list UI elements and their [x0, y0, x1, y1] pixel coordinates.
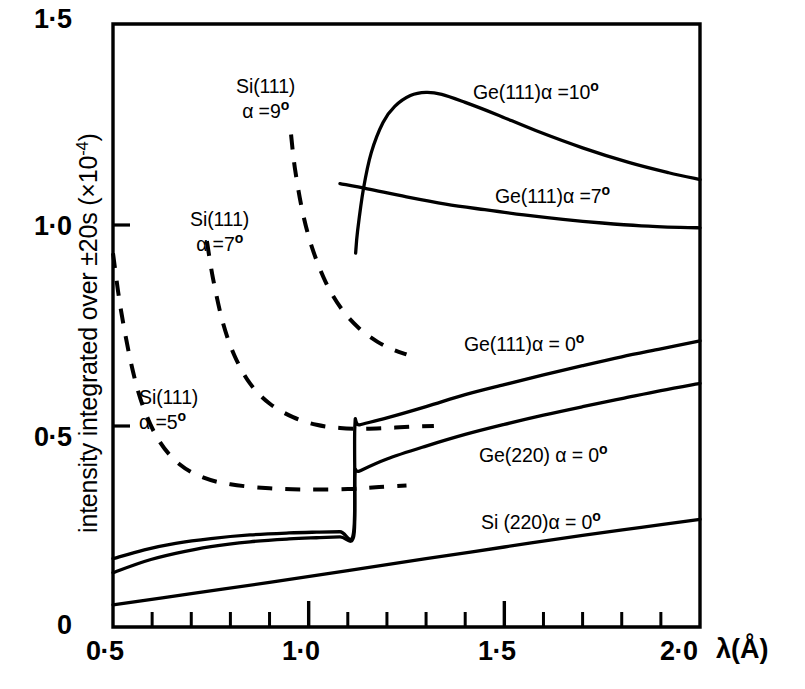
degree-icon: o [281, 97, 289, 113]
degree-icon: o [178, 408, 186, 424]
curve-0 [356, 92, 700, 253]
curve-label-si111-alpha7-line1: Si(111) [190, 208, 249, 230]
figure-root: intensity integrated over ±20s (×10-4) λ… [0, 0, 805, 689]
y-tick-label-1-5: 1·5 [34, 4, 72, 35]
curve-label-ge220-alpha0: Ge(220) α = 0o [479, 441, 607, 466]
curve-label-si111-alpha9: Si(111) α =9o [236, 75, 295, 122]
y-tick-label-1-0: 1·0 [34, 211, 72, 242]
curve-7 [291, 135, 406, 355]
curve-label-si111-alpha5-line1: Si(111) [139, 386, 198, 408]
curve-label-si111-alpha7-value: α =7 [196, 233, 235, 255]
curve-label-ge111-alpha0: Ge(111)α = 0o [464, 330, 584, 355]
y-tick-label-0-5: 0·5 [34, 422, 72, 453]
y-axis-title-main: intensity integrated over ±20s (×10 [74, 156, 102, 533]
plot-canvas [0, 0, 805, 689]
curve-2 [113, 341, 700, 559]
curve-label-si220-alpha0-text: Si (220)α = 0 [481, 511, 592, 533]
curve-label-si111-alpha7-line2: α =7o [190, 230, 249, 255]
curve-label-ge111-alpha7-text: Ge(111)α =7 [495, 185, 601, 207]
curve-label-si111-alpha9-value: α =9 [242, 100, 281, 122]
curve-label-si111-alpha5-line2: α =5o [139, 408, 198, 433]
plot-frame [113, 24, 700, 627]
curve-label-ge220-alpha0-text: Ge(220) α = 0 [479, 444, 599, 466]
degree-icon: o [592, 508, 600, 524]
curve-6 [207, 241, 434, 429]
curve-label-si111-alpha5-value: α =5 [139, 411, 178, 433]
curve-label-ge111-alpha10-text: Ge(111)α =10 [473, 81, 590, 103]
curve-label-si111-alpha7: Si(111) α =7o [190, 208, 249, 255]
x-tick-label-1-0: 1·0 [282, 636, 320, 667]
x-tick-label-2-0: 2·0 [660, 636, 698, 667]
curve-label-si111-alpha5: Si(111) α =5o [139, 386, 198, 433]
curve-label-si111-alpha9-line2: α =9o [236, 97, 295, 122]
x-tick-label-0-5: 0·5 [86, 636, 124, 667]
degree-icon: o [235, 230, 243, 246]
curve-4 [113, 519, 700, 605]
y-axis-title-tail: ) [74, 133, 102, 141]
x-axis-title: λ(Å) [716, 634, 769, 665]
curve-label-si111-alpha9-line1: Si(111) [236, 75, 295, 97]
degree-icon: o [599, 441, 607, 457]
y-tick-label-0: 0 [57, 610, 72, 641]
curve-label-ge111-alpha7: Ge(111)α =7o [495, 182, 610, 207]
degree-icon: o [576, 330, 584, 346]
degree-icon: o [601, 182, 609, 198]
curve-label-ge111-alpha0-text: Ge(111)α = 0 [464, 333, 576, 355]
y-axis-title: intensity integrated over ±20s (×10-4) [73, 23, 103, 643]
curve-label-ge111-alpha10: Ge(111)α =10o [473, 78, 599, 103]
y-axis-title-exponent: -4 [73, 142, 91, 156]
x-tick-label-1-5: 1·5 [478, 636, 516, 667]
curve-label-si220-alpha0: Si (220)α = 0o [481, 508, 601, 533]
curve-5 [113, 253, 407, 489]
data-curves [113, 92, 700, 605]
degree-icon: o [590, 78, 598, 94]
